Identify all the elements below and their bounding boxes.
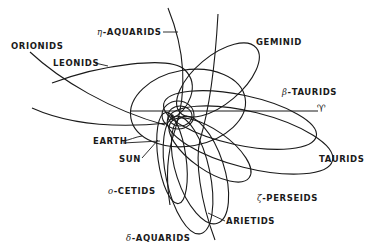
label-sun: SUN <box>119 155 141 164</box>
label-geminid: GEMINID <box>256 38 302 47</box>
label-eta-aquarids: η-AQUARIDS <box>97 28 162 37</box>
label-orionids: ORIONIDS <box>11 42 63 51</box>
label-beta-taurids: β-TAURIDS <box>282 88 337 97</box>
vertical-orbit <box>198 14 218 240</box>
meteor-orbit-diagram <box>0 0 368 251</box>
label-zeta-perseids: ζ-PERSEIDS <box>257 194 318 203</box>
label-taurids: TAURIDS <box>319 155 364 164</box>
label-delta-aquarids: δ-AQUARIDS <box>126 234 191 243</box>
label-arietids: ARIETIDS <box>226 217 275 226</box>
label-omicron-cetids: ο-CETIDS <box>108 187 156 196</box>
vernal-equinox-symbol: ♈ <box>317 104 327 114</box>
label-earth: EARTH <box>93 137 127 146</box>
sun-leader <box>142 140 158 158</box>
label-leonids: LEONIDS <box>53 59 99 68</box>
